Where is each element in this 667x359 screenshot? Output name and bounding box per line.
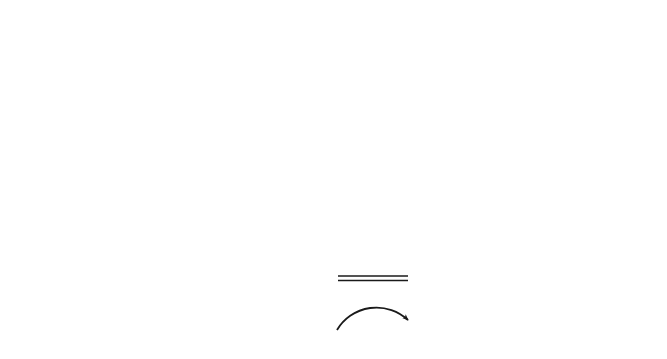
triangulation-diagram [0,0,667,359]
legend [337,276,408,330]
legend-item-observed-angles [337,308,408,330]
network-svg [0,0,667,359]
legend-item-baseline [338,276,408,281]
curved-arrow-symbol [337,308,408,330]
